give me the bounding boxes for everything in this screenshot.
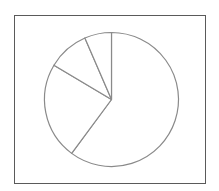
- pie-chart: [0, 0, 219, 191]
- chart-canvas: [0, 0, 219, 191]
